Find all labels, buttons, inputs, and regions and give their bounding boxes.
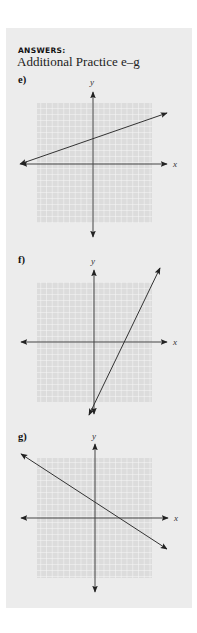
graph-g-y-label: y — [91, 431, 96, 441]
graph-g: y x — [0, 0, 197, 633]
graph-g-x-label: x — [173, 513, 178, 523]
